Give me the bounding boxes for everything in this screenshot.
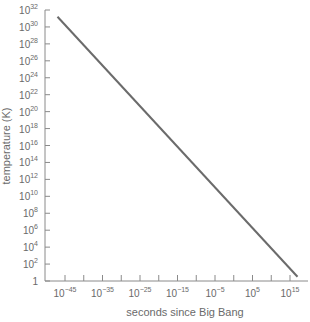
- y-tick-label: 1030: [19, 20, 38, 33]
- y-tick-label: 106: [23, 223, 38, 236]
- y-tick-label: 1016: [19, 139, 38, 152]
- y-tick-label: 1010: [19, 189, 38, 202]
- y-tick-label: 1028: [19, 37, 38, 50]
- x-tick-label: 1015: [281, 286, 300, 299]
- y-tick-label: 1022: [19, 88, 38, 101]
- x-tick-label: 10−45: [54, 286, 77, 299]
- y-tick-label: 108: [23, 206, 38, 219]
- data-series: [58, 17, 298, 277]
- temperature-line: [58, 17, 298, 277]
- y-tick-label: 102: [23, 257, 38, 270]
- x-axis-title: seconds since Big Bang: [126, 306, 243, 318]
- x-tick-label: 10−35: [91, 286, 114, 299]
- y-tick-label: 104: [23, 240, 38, 253]
- y-tick-label: 1012: [19, 172, 38, 185]
- x-axis: 10−4510−3510−2510−1510−51051015: [45, 275, 308, 299]
- y-tick-label: 1026: [19, 54, 38, 67]
- y-axis-title: temperature (K): [0, 107, 12, 184]
- y-tick-label: 1024: [19, 71, 38, 84]
- y-tick-label: 1: [32, 276, 38, 287]
- y-tick-label: 1018: [19, 122, 38, 135]
- x-tick-label: 10−25: [129, 286, 152, 299]
- x-tick-label: 105: [245, 286, 260, 299]
- y-tick-label: 1032: [19, 3, 38, 16]
- x-tick-label: 10−15: [166, 286, 189, 299]
- temperature-vs-time-chart: 1102104106108101010121014101610181020102…: [0, 0, 310, 322]
- x-tick-label: 10−5: [205, 286, 224, 299]
- y-tick-label: 1020: [19, 105, 38, 118]
- y-axis: 1102104106108101010121014101610181020102…: [19, 3, 50, 287]
- y-tick-label: 1014: [19, 155, 38, 168]
